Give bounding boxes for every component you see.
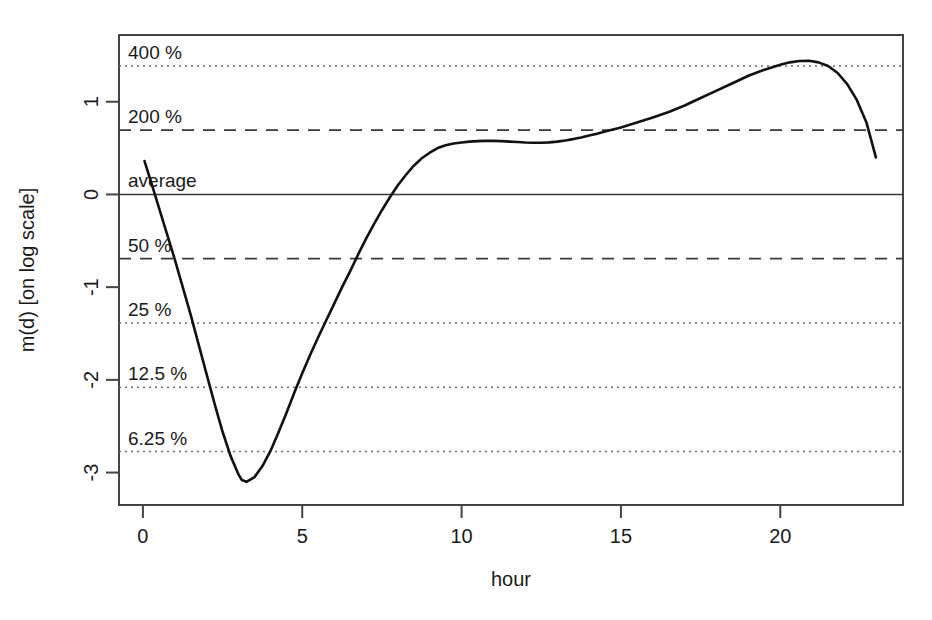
- chart-container: 400 %200 %average50 %25 %12.5 %6.25 % 05…: [0, 0, 932, 620]
- x-tick-label-20: 20: [769, 525, 791, 547]
- line-chart-plot: 400 %200 %average50 %25 %12.5 %6.25 % 05…: [0, 0, 932, 620]
- y-tick-label-0: 0: [80, 189, 102, 200]
- reference-label-25-: 25 %: [128, 299, 171, 320]
- gridlines-group: [119, 66, 903, 452]
- plot-frame: [119, 35, 903, 505]
- x-tick-label-15: 15: [610, 525, 632, 547]
- y-tick-label-neg1: -1: [80, 278, 102, 296]
- y-axis: 10-1-2-3: [80, 96, 118, 481]
- x-tick-label-5: 5: [297, 525, 308, 547]
- x-axis-title: hour: [491, 568, 531, 590]
- reference-label-6-25-: 6.25 %: [128, 428, 187, 449]
- reference-label-200-: 200 %: [128, 106, 182, 127]
- reference-label-average: average: [128, 170, 197, 191]
- reference-label-400-: 400 %: [128, 42, 182, 63]
- y-tick-label-neg3: -3: [80, 464, 102, 482]
- reference-label-50-: 50 %: [128, 235, 171, 256]
- reference-label-12-5-: 12.5 %: [128, 363, 187, 384]
- data-curve-m-of-d: [145, 61, 876, 482]
- x-tick-label-0: 0: [137, 525, 148, 547]
- y-tick-label-1: 1: [80, 96, 102, 107]
- x-axis: 05101520: [137, 506, 791, 547]
- x-tick-label-10: 10: [450, 525, 472, 547]
- y-axis-title: m(d) [on log scale]: [16, 188, 38, 353]
- y-tick-label-neg2: -2: [80, 371, 102, 389]
